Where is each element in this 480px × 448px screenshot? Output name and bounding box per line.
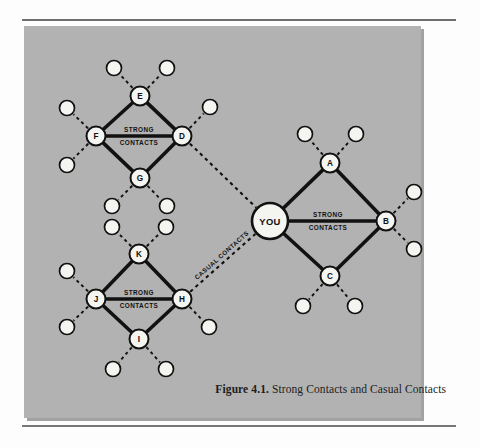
figure-caption-number: Figure 4.1. — [215, 383, 269, 395]
casual-contact-label-layer: CASUAL CONTACTS — [193, 229, 250, 281]
satellite-node — [160, 199, 175, 214]
satellite-node — [60, 264, 75, 279]
casual-contact-edge — [190, 144, 256, 208]
node-label: B — [383, 217, 389, 226]
satellite-node — [106, 362, 121, 377]
node-label: H — [179, 295, 185, 304]
node-c: C — [321, 267, 340, 286]
satellite-node — [296, 299, 311, 314]
satellite-node — [60, 320, 75, 335]
node-h: H — [173, 290, 192, 309]
satellite-edges-layer — [73, 74, 407, 362]
node-a: A — [321, 154, 340, 173]
satellite-edge — [118, 186, 132, 200]
strong-contact-edge — [102, 260, 133, 293]
satellite-node — [105, 220, 120, 235]
satellite-edge — [309, 284, 323, 299]
satellite-edge — [147, 233, 160, 246]
satellite-edge — [311, 141, 323, 155]
satellite-node — [203, 100, 218, 115]
strong-contact-edge — [146, 142, 176, 172]
casual-contacts-label: CASUAL CONTACTS — [193, 229, 250, 281]
node-label: G — [137, 174, 143, 183]
figure-caption-text: Strong Contacts and Casual Contacts — [272, 383, 446, 395]
node-you: YOU — [252, 203, 288, 239]
satellite-edge — [73, 114, 88, 128]
satellite-node — [107, 61, 122, 76]
network-diagram: STRONGCONTACTSSTRONGCONTACTSSTRONGCONTAC… — [0, 0, 480, 448]
node-label: F — [93, 132, 98, 141]
figure-page: STRONGCONTACTSSTRONGCONTACTSSTRONGCONTAC… — [0, 0, 480, 448]
node-label: C — [327, 272, 333, 281]
satellite-edge — [118, 233, 131, 246]
satellite-edge — [190, 307, 203, 321]
node-b: B — [377, 212, 396, 231]
satellite-node — [348, 299, 363, 314]
strong-contact-edge — [145, 260, 176, 293]
satellite-edge — [394, 229, 408, 243]
satellite-node — [407, 185, 422, 200]
satellite-edge — [73, 307, 88, 321]
node-label: E — [137, 92, 143, 101]
satellite-edge — [148, 74, 161, 88]
node-f: F — [87, 127, 106, 146]
satellite-edge — [146, 347, 160, 362]
node-j: J — [87, 290, 106, 309]
strong-contacts-label-line1: STRONG — [313, 211, 343, 218]
node-label: YOU — [259, 216, 281, 227]
node-label: K — [136, 250, 142, 259]
node-g: G — [131, 169, 150, 188]
satellite-node — [407, 242, 422, 257]
satellite-edge — [73, 277, 88, 291]
strong-contact-edge — [102, 142, 134, 172]
satellite-node — [160, 61, 175, 76]
strong-contacts-label-line2: CONTACTS — [309, 224, 348, 231]
strong-contact-edge — [336, 169, 380, 215]
satellite-node — [159, 362, 174, 377]
satellite-node — [202, 320, 217, 335]
casual-contact-edge — [190, 234, 255, 292]
strong-contact-edge — [336, 227, 380, 270]
strong-contact-labels-layer: STRONGCONTACTSSTRONGCONTACTSSTRONGCONTAC… — [120, 126, 348, 309]
node-d: D — [173, 127, 192, 146]
node-k: K — [130, 245, 149, 264]
node-e: E — [131, 87, 150, 106]
satellite-edge — [148, 186, 161, 200]
satellite-edge — [337, 141, 350, 155]
satellite-node — [349, 127, 364, 142]
node-label: J — [94, 295, 99, 304]
satellite-node — [60, 101, 75, 116]
satellite-edge — [119, 347, 132, 362]
strong-contacts-label-line2: CONTACTS — [120, 139, 159, 146]
satellite-edge — [394, 198, 408, 213]
figure-caption: Figure 4.1. Strong Contacts and Casual C… — [215, 383, 446, 395]
satellite-nodes-layer — [60, 61, 422, 377]
strong-contact-edge — [283, 232, 324, 270]
strong-contacts-label-line1: STRONG — [124, 289, 154, 296]
node-label: I — [138, 335, 140, 344]
strong-contacts-label-line2: CONTACTS — [120, 302, 159, 309]
satellite-edge — [73, 144, 88, 159]
satellite-edge — [190, 113, 204, 128]
strong-contacts-label-line1: STRONG — [124, 126, 154, 133]
satellite-node — [60, 158, 75, 173]
satellite-node — [105, 199, 120, 214]
satellite-node — [159, 220, 174, 235]
node-label: D — [179, 132, 185, 141]
node-label: A — [327, 159, 333, 168]
satellite-edge — [120, 75, 132, 88]
satellite-edge — [337, 284, 349, 299]
satellite-node — [298, 127, 313, 142]
node-i: I — [130, 330, 149, 349]
strong-contact-edge — [282, 169, 324, 209]
